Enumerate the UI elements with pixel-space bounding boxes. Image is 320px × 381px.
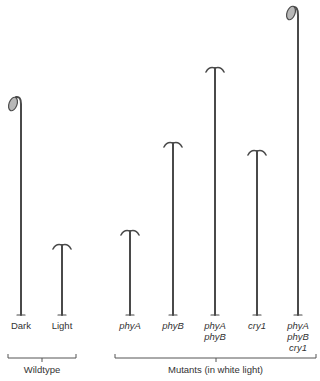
label-line: phyB [278, 331, 318, 342]
seedling-dark [16, 97, 25, 315]
label-light: Light [42, 320, 82, 331]
group-label-wildtype: Wildtype [8, 364, 76, 375]
wildtype-bracket [8, 354, 76, 362]
label-line: phyA [278, 320, 318, 331]
label-line: cry1 [278, 342, 318, 353]
cotyledon-icon [285, 5, 297, 21]
label-cry1: cry1 [237, 320, 277, 331]
cotyledon-icon [7, 96, 19, 112]
seedling-phyA-phyB-cry1 [293, 7, 302, 315]
label-triple: phyA phyB cry1 [278, 320, 318, 353]
seedling-cry1 [248, 151, 266, 316]
seedling-phyA [121, 231, 139, 316]
seedling-light [53, 245, 71, 316]
label-phyA-phyB: phyA phyB [195, 320, 235, 342]
seedling-phyA-phyB [206, 68, 224, 316]
seedling-phyB [164, 143, 182, 316]
label-phyA: phyA [110, 320, 150, 331]
label-line: phyA [195, 320, 235, 331]
label-line: phyB [195, 331, 235, 342]
group-label-mutants: Mutants (in white light) [115, 364, 316, 375]
label-dark: Dark [1, 320, 41, 331]
label-phyB: phyB [153, 320, 193, 331]
mutants-bracket [115, 354, 316, 362]
